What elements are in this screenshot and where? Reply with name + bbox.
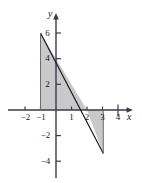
x-tick-label--1: −1 xyxy=(35,113,48,122)
x-axis-label: x xyxy=(127,112,131,122)
y-tick-label--4: −4 xyxy=(39,157,52,166)
graph-figure: −2 −1 1 2 3 4 6 4 2 −2 −4 y x xyxy=(0,0,142,183)
x-tick-label--2: −2 xyxy=(19,113,32,122)
x-tick-label-1: 1 xyxy=(67,113,76,122)
y-tick-label--2: −2 xyxy=(39,131,52,140)
y-axis-label: y xyxy=(48,9,52,19)
y-tick-label-6: 6 xyxy=(43,29,52,38)
y-axis-arrowhead xyxy=(53,13,59,20)
x-tick-label-3: 3 xyxy=(98,113,107,122)
y-tick-label-4: 4 xyxy=(43,54,52,63)
shaded-region-above-axis xyxy=(41,33,88,110)
coordinate-plane-svg xyxy=(0,0,142,183)
x-tick-label-4: 4 xyxy=(114,113,123,122)
y-tick-label-2: 2 xyxy=(43,80,52,89)
x-tick-label-2: 2 xyxy=(83,113,92,122)
